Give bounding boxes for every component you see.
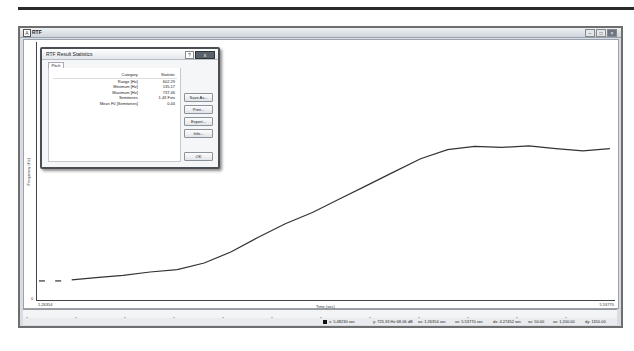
statistics-table: Category Statistic Range [Hz] 602.29 Min…	[53, 72, 177, 106]
x-axis-start-label: 1.26354	[38, 302, 52, 307]
info-button[interactable]: Info...	[184, 129, 213, 138]
status-y-high: xx: 1,200.00	[553, 318, 575, 325]
status-dx: dx: 4.27452 sec	[493, 318, 521, 325]
print-button[interactable]: Print...	[184, 105, 213, 114]
help-button[interactable]: ?	[185, 51, 194, 59]
page-top-rule	[18, 7, 634, 10]
maximize-button[interactable]: □	[596, 29, 606, 37]
window-title: RTF	[32, 29, 42, 35]
result-statistics-dialog: RTF Result Statistics ? x Pitch Category…	[40, 47, 220, 169]
x-axis-end-label: 5.53770	[600, 302, 614, 307]
minimize-button[interactable]: –	[585, 29, 595, 37]
status-cursor-x: x: 5.48230 sec	[323, 318, 355, 325]
close-button[interactable]: ×	[607, 29, 617, 37]
status-bar: x: 5.48230 sec y: 725.33 Hz 68.06 dB xx:…	[23, 318, 617, 325]
window-titlebar: A RTF – □ ×	[20, 28, 621, 38]
y-axis-min-label: 0	[31, 296, 33, 301]
status-cursor-x-text: x: 5.48230 sec	[329, 319, 355, 324]
dialog-title: RTF Result Statistics	[46, 51, 93, 57]
status-dy: dy: 1150.00	[585, 318, 606, 325]
status-cursor-y: y: 725.33 Hz 68.06 dB	[373, 318, 413, 325]
ok-button[interactable]: OK	[184, 152, 213, 161]
status-y-low: xx: 50.00	[528, 318, 544, 325]
dialog-titlebar[interactable]: RTF Result Statistics ? x	[42, 49, 218, 60]
y-axis-label: Frequency (Hz)	[26, 158, 31, 186]
save-as-button[interactable]: Save As...	[184, 93, 213, 102]
export-button[interactable]: Export...	[184, 117, 213, 126]
status-start: xx: 1.26354 sec	[418, 318, 446, 325]
row-category: Mean F0 [Semitones]	[53, 101, 140, 107]
row-value: 0.44	[140, 101, 177, 107]
status-end: xx: 5.53770 sec	[455, 318, 483, 325]
app-icon: A	[23, 29, 31, 37]
dialog-close-button[interactable]: x	[195, 51, 215, 59]
table-row[interactable]: Mean F0 [Semitones] 0.44	[53, 101, 177, 107]
window-controls: – □ ×	[585, 29, 617, 37]
statistics-panel: Category Statistic Range [Hz] 602.29 Min…	[48, 68, 181, 162]
cursor-marker-icon	[323, 320, 327, 324]
